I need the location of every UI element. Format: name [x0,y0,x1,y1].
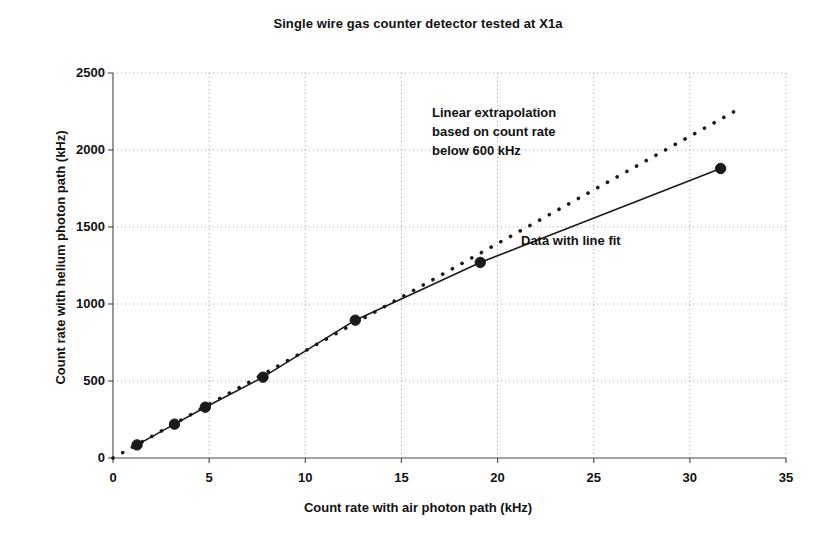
y-tick-label: 2500 [45,65,105,80]
chart-figure: Single wire gas counter detector tested … [0,0,836,541]
x-tick-label: 35 [761,470,811,485]
data-fit-annotation: Data with line fit [521,232,621,251]
x-tick-label: 0 [88,470,138,485]
y-axis-title: Count rate with helium photon path (kHz) [53,58,68,458]
x-tick-label: 10 [280,470,330,485]
x-tick-label: 20 [473,470,523,485]
y-tick-label: 500 [45,373,105,388]
y-tick-label: 2000 [45,142,105,157]
x-axis-title: Count rate with air photon path (kHz) [0,500,836,515]
x-tick-label: 15 [376,470,426,485]
chart-title: Single wire gas counter detector tested … [0,16,836,31]
data-series [137,168,721,444]
data-markers [132,163,726,450]
x-tick-label: 5 [184,470,234,485]
extrapolation-annotation: Linear extrapolation based on count rate… [432,104,556,161]
y-tick-label: 0 [45,450,105,465]
y-tick-label: 1500 [45,219,105,234]
x-tick-label: 30 [665,470,715,485]
y-tick-label: 1000 [45,296,105,311]
x-tick-label: 25 [569,470,619,485]
